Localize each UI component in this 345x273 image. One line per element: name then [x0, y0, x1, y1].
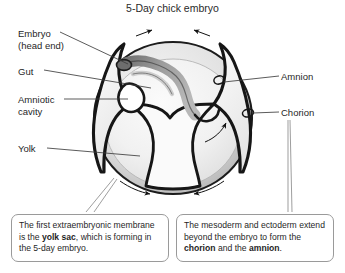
label-gut: Gut [18, 66, 33, 78]
label-embryo: Embryo (head end) [18, 28, 64, 51]
callout-right-text: The mesoderm and ectoderm extend beyond … [184, 220, 326, 255]
label-amniotic-line1: Amniotic [18, 94, 54, 105]
label-amnion-line1: Amnion [281, 71, 313, 82]
label-amniotic-line2: cavity [18, 106, 54, 118]
label-amnion: Amnion [281, 71, 313, 83]
label-gut-line1: Gut [18, 66, 33, 77]
figure-root: 5-Day chick embryo Embryo (head end) Gut… [0, 0, 345, 273]
tail-left-b [94, 179, 117, 212]
figure-title: 5-Day chick embryo [0, 3, 345, 15]
embryo-head-end [117, 60, 132, 71]
arrow-top-left [136, 30, 152, 36]
label-chorion: Chorion [281, 107, 314, 119]
leader-chorion [253, 112, 279, 113]
label-chorion-line1: Chorion [281, 107, 314, 118]
callout-box-yolk-sac: The first extraembryonic membrane is the… [11, 214, 169, 262]
label-yolk: Yolk [18, 143, 36, 155]
label-amniotic-cavity: Amniotic cavity [18, 94, 54, 117]
callout-box-chorion-amnion: The mesoderm and ectoderm extend beyond … [176, 214, 334, 262]
label-yolk-line1: Yolk [18, 143, 36, 154]
label-embryo-line1: Embryo [18, 28, 51, 39]
tail-left-a [86, 178, 114, 212]
callout-left-text: The first extraembryonic membrane is the… [19, 220, 161, 255]
arrow-top-right [194, 30, 210, 36]
label-embryo-line2: (head end) [18, 40, 64, 52]
tail-right-b [290, 120, 292, 212]
